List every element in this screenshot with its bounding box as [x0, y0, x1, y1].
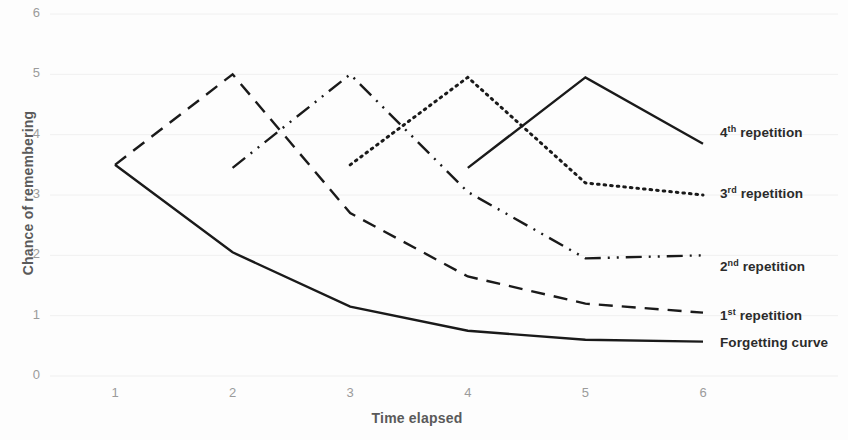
legend-label-text: Forgetting curve: [720, 335, 828, 350]
x-tick-label: 1: [102, 385, 128, 400]
y-tick-label: 6: [14, 5, 40, 20]
series-line-4th-repetition: [468, 77, 703, 168]
legend-ordinal-suffix: th: [728, 124, 737, 134]
forgetting-curve-chart: Chance of remembering Time elapsed 65432…: [0, 0, 848, 440]
legend-ordinal: 2: [720, 259, 728, 274]
legend-ordinal-suffix: rd: [728, 185, 737, 195]
series-line-1st-repetition: [115, 74, 703, 312]
x-tick-label: 5: [572, 385, 598, 400]
legend-item-rep1[interactable]: 1st repetition: [720, 308, 802, 323]
legend-label-text: repetition: [737, 186, 803, 201]
legend-label-text: repetition: [736, 125, 802, 140]
y-tick-label: 5: [14, 65, 40, 80]
legend-ordinal: 3: [720, 186, 728, 201]
legend-item-rep4[interactable]: 4th repetition: [720, 125, 803, 140]
x-tick-label: 3: [337, 385, 363, 400]
x-tick-label: 6: [690, 385, 716, 400]
legend-ordinal-suffix: st: [728, 307, 736, 317]
x-tick-label: 2: [220, 385, 246, 400]
series-paths: [115, 74, 703, 341]
legend-item-forgetting[interactable]: Forgetting curve: [720, 335, 828, 350]
x-tick-label: 4: [455, 385, 481, 400]
legend-item-rep3[interactable]: 3rd repetition: [720, 186, 803, 201]
legend-ordinal: 4: [720, 125, 728, 140]
legend-label-text: repetition: [739, 259, 805, 274]
legend-item-rep2[interactable]: 2nd repetition: [720, 259, 805, 274]
y-tick-label: 1: [14, 307, 40, 322]
series-line-3rd-repetition: [350, 77, 703, 195]
y-tick-label: 3: [14, 186, 40, 201]
legend-ordinal-suffix: nd: [728, 258, 739, 268]
chart-plot-area: [0, 0, 848, 440]
y-tick-label: 4: [14, 126, 40, 141]
y-tick-label: 0: [14, 367, 40, 382]
x-axis-title: Time elapsed: [292, 410, 542, 426]
series-line-forgetting-curve: [115, 165, 703, 342]
y-tick-label: 2: [14, 246, 40, 261]
legend-ordinal: 1: [720, 308, 728, 323]
legend-label-text: repetition: [736, 308, 802, 323]
